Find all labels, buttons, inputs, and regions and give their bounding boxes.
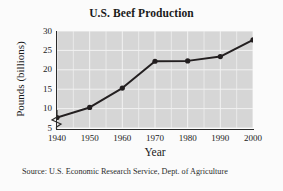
- chart-figure: U.S. Beef Production 51015202530 1940195…: [0, 0, 283, 191]
- data-point: [185, 58, 190, 63]
- y-tick-label: 15: [30, 85, 52, 94]
- x-tick-label: 1970: [138, 134, 172, 143]
- y-tick-label: 10: [30, 104, 52, 113]
- data-point: [87, 105, 92, 110]
- y-axis-tick-labels: 51015202530: [28, 0, 52, 191]
- data-series-line: [57, 31, 253, 128]
- plot-area: [57, 31, 253, 128]
- x-tick-label: 1960: [105, 134, 139, 143]
- x-axis-tick-labels: 1940195019601970198019902000: [0, 134, 283, 146]
- y-tick-label: 5: [30, 124, 52, 133]
- y-tick-label: 25: [30, 46, 52, 55]
- y-tick-label: 30: [30, 27, 52, 36]
- data-point: [218, 54, 223, 59]
- x-tick-label: 1990: [203, 134, 237, 143]
- x-tick-label: 1940: [40, 134, 74, 143]
- data-point: [152, 59, 157, 64]
- x-axis-line: [56, 129, 254, 130]
- x-tick-label: 1950: [73, 134, 107, 143]
- x-tick-label: 2000: [236, 134, 270, 143]
- data-point: [120, 85, 125, 90]
- x-tick-label: 1980: [171, 134, 205, 143]
- x-axis-title: Year: [57, 146, 253, 158]
- y-tick-label: 20: [30, 65, 52, 74]
- y-axis-break-icon: [50, 110, 64, 129]
- y-axis-title: Pounds (billions): [14, 31, 26, 127]
- source-note: Source: U.S. Economic Research Service, …: [22, 167, 228, 176]
